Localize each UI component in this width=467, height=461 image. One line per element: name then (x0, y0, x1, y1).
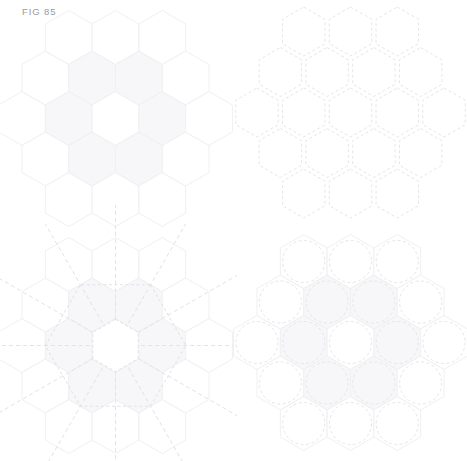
hex-cell (376, 88, 418, 137)
hex-cell (306, 129, 348, 178)
hex-cell (259, 129, 301, 178)
hex-cell (236, 88, 278, 137)
panel-dashed-honeycomb (243, 10, 458, 215)
hex-cell (329, 7, 371, 56)
hex-cell (329, 88, 371, 137)
hex-cell (399, 129, 441, 178)
solid-honeycomb-svg (8, 16, 223, 221)
panel-solid-honeycomb (8, 16, 223, 221)
inscribed-circle-honeycomb-svg (243, 240, 458, 445)
hex-cell (329, 169, 371, 218)
hex-cell (376, 169, 418, 218)
hex-cell (399, 48, 441, 97)
hex-cell (283, 7, 325, 56)
panel-radial-ray-honeycomb (8, 243, 223, 448)
hex-cell (259, 48, 301, 97)
hex-cell (423, 88, 465, 137)
hex-cell (353, 129, 395, 178)
hex-cell (306, 48, 348, 97)
hex-cell (283, 169, 325, 218)
radial-ray-honeycomb-svg (8, 243, 223, 448)
figure-sheet: FIG 85 (0, 0, 467, 461)
hex-cell (283, 88, 325, 137)
panel-inscribed-circle-honeycomb (243, 240, 458, 445)
dashed-honeycomb-svg (243, 10, 458, 215)
hex-cell (353, 48, 395, 97)
hex-cell (376, 7, 418, 56)
